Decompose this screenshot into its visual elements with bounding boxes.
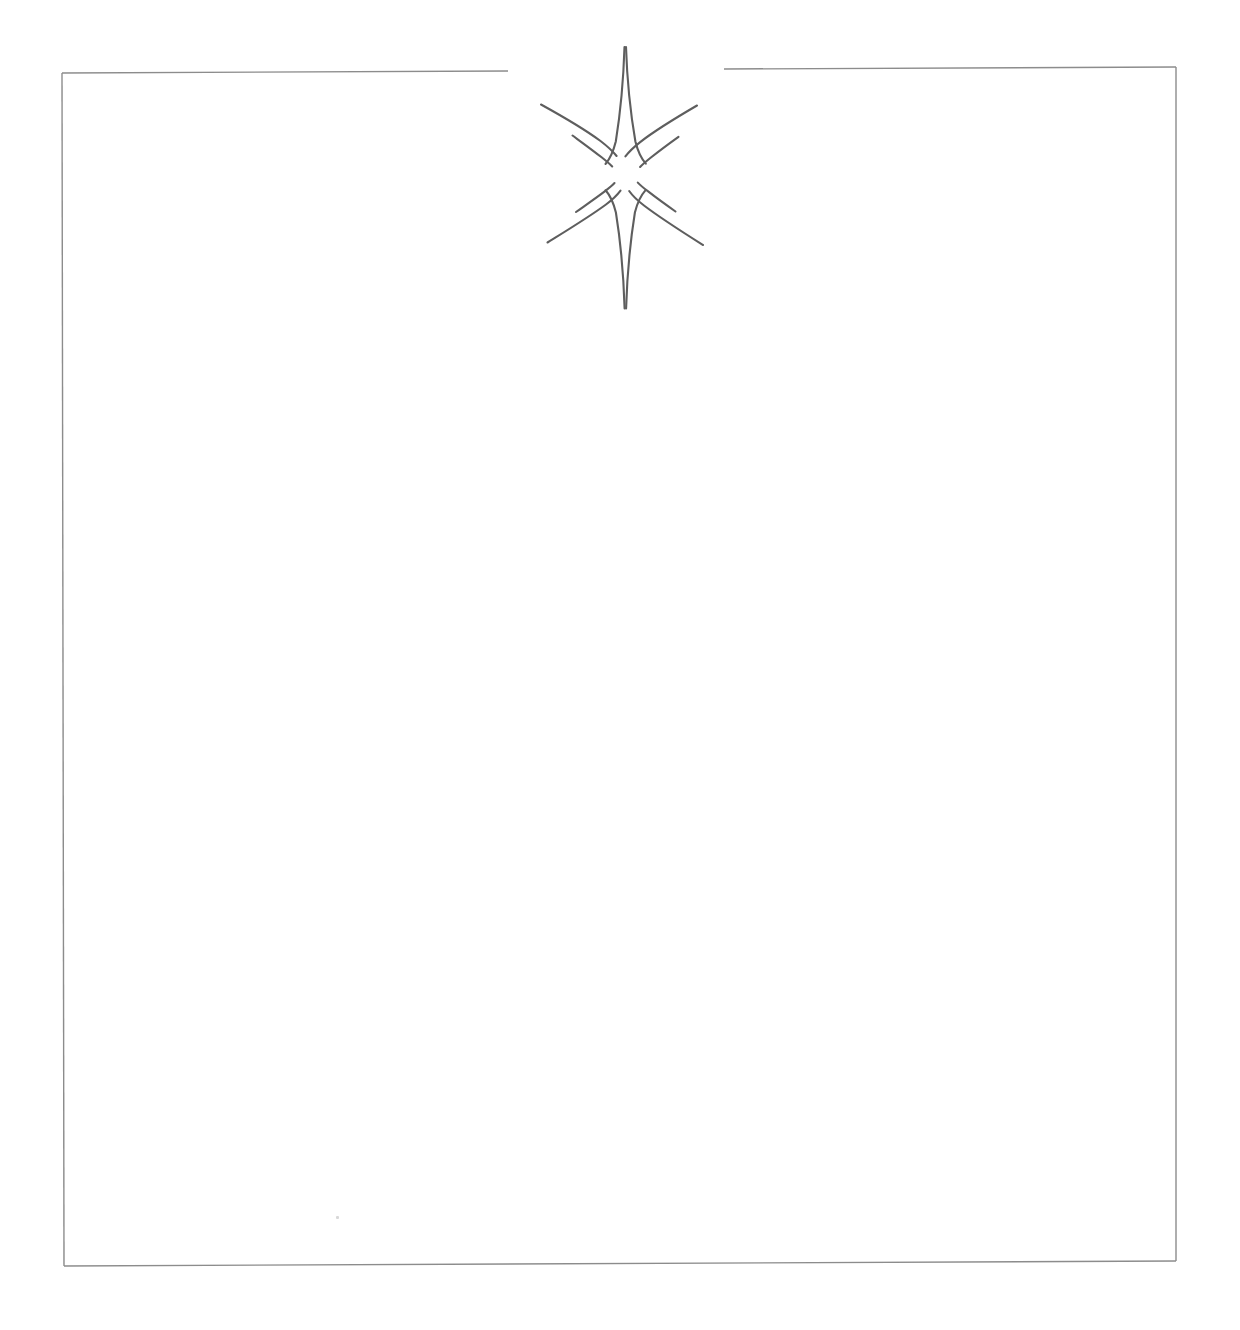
border-bottom-segment bbox=[64, 1261, 1176, 1266]
star-northwest-ray-inner-edge bbox=[573, 136, 613, 167]
page-canvas bbox=[0, 0, 1240, 1330]
star-south-ray-right-edge bbox=[626, 191, 645, 309]
star-south-ray-left-edge bbox=[606, 190, 625, 308]
star-northwest-ray-outer-edge bbox=[541, 105, 617, 157]
star-ornament-group bbox=[541, 47, 703, 309]
star-northeast-ray-inner-edge bbox=[640, 137, 678, 167]
star-southeast-ray-inner-edge bbox=[638, 183, 676, 212]
star-southwest-ray-outer-edge bbox=[548, 191, 621, 243]
border-top-right-segment bbox=[724, 67, 1176, 69]
blank-body-region bbox=[64, 320, 1174, 1250]
border-top-left-segment bbox=[62, 71, 508, 73]
star-southwest-ray-inner-edge bbox=[576, 183, 615, 212]
